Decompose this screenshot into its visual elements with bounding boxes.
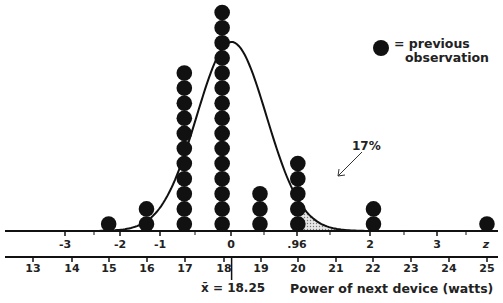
observation-dot: [177, 65, 193, 81]
observation-dot: [139, 201, 155, 217]
observation-dot: [214, 5, 230, 21]
observation-dot: [214, 141, 230, 157]
z-tick-label: -2: [114, 238, 126, 251]
legend-label: = previous observation: [394, 37, 489, 65]
watts-tick-label: 25: [479, 262, 494, 275]
observation-dot: [139, 216, 155, 232]
observation-dot: [214, 95, 230, 111]
legend-dot-icon: [373, 40, 389, 56]
observation-dot: [479, 216, 495, 232]
watts-tick-label: 21: [328, 262, 343, 275]
legend-line-2: observation: [394, 51, 489, 65]
observation-dot: [177, 126, 193, 142]
observation-dot: [214, 111, 230, 127]
observation-dot: [290, 201, 306, 217]
watts-tick-label: 20: [290, 262, 305, 275]
observation-dot: [214, 20, 230, 36]
observation-dot: [290, 216, 306, 232]
observation-dot: [252, 201, 268, 217]
percent-arrow: [338, 152, 362, 176]
observation-dot: [290, 156, 306, 172]
z-tick-label: -3: [59, 238, 71, 251]
observation-dot: [177, 216, 193, 232]
z-tick-label: z: [483, 238, 489, 251]
observation-dot: [214, 156, 230, 172]
z-tick-label: 2: [366, 238, 374, 251]
observation-dot: [214, 50, 230, 66]
watts-tick-label: 17: [177, 262, 192, 275]
watts-tick-label: 18: [216, 262, 231, 275]
observation-dot: [177, 156, 193, 172]
observation-dot: [177, 171, 193, 187]
observation-dot: [214, 80, 230, 96]
observation-dot: [214, 65, 230, 81]
observation-dot: [177, 201, 193, 217]
watts-tick-label: 13: [25, 262, 40, 275]
watts-tick-label: 24: [441, 262, 456, 275]
observation-dot: [214, 171, 230, 187]
percent-label: 17%: [352, 139, 381, 153]
observation-dot: [252, 216, 268, 232]
watts-tick-label: 16: [139, 262, 154, 275]
observation-dot: [214, 216, 230, 232]
watts-tick-label: 22: [365, 262, 380, 275]
observation-dot: [290, 186, 306, 202]
legend-line-1: = previous: [394, 37, 489, 51]
watts-tick-label: 14: [64, 262, 79, 275]
observation-dot: [214, 201, 230, 217]
z-tick-label: -1: [154, 238, 166, 251]
observation-dot: [214, 186, 230, 202]
observation-dot: [177, 95, 193, 111]
watts-tick-label: 15: [101, 262, 116, 275]
normal-curve: [5, 42, 495, 231]
observation-dot: [214, 35, 230, 51]
observation-dot: [177, 186, 193, 202]
observation-dot: [214, 126, 230, 142]
z-tick-label: 0: [227, 238, 235, 251]
observation-dot: [177, 80, 193, 96]
observation-dot: [290, 171, 306, 187]
observation-dot: [101, 216, 117, 232]
observation-dot: [252, 186, 268, 202]
watts-tick-label: 19: [253, 262, 268, 275]
observation-dot: [366, 201, 382, 217]
x-axis-title: Power of next device (watts): [290, 281, 493, 296]
mean-label: x̄ = 18.25: [201, 281, 265, 295]
watts-tick-label: 23: [403, 262, 418, 275]
observation-dot: [177, 141, 193, 157]
z-tick-label: .96: [287, 238, 307, 251]
observation-dot: [177, 111, 193, 127]
observation-dot: [366, 216, 382, 232]
z-tick-label: 3: [433, 238, 441, 251]
